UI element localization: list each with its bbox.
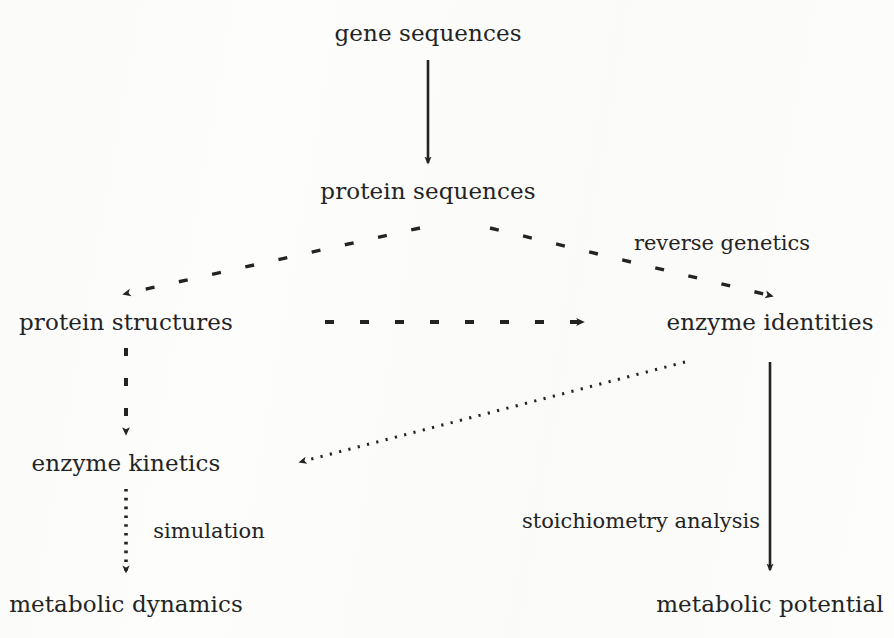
edge-label-stoichiometry-analysis: stoichiometry analysis bbox=[522, 511, 760, 532]
node-enzyme-identities: enzyme identities bbox=[666, 311, 873, 334]
diagram-canvas: gene sequences protein sequences protein… bbox=[0, 0, 894, 638]
node-enzyme-kinetics: enzyme kinetics bbox=[32, 452, 221, 475]
node-metabolic-dynamics: metabolic dynamics bbox=[9, 593, 243, 616]
node-gene-sequences: gene sequences bbox=[334, 22, 521, 45]
edge-enzymes-to-kinetics bbox=[300, 362, 685, 462]
node-protein-sequences: protein sequences bbox=[320, 180, 535, 203]
node-metabolic-potential: metabolic potential bbox=[656, 593, 884, 616]
edge-label-simulation: simulation bbox=[153, 521, 265, 542]
edge-protein-to-structures bbox=[124, 228, 420, 294]
node-protein-structures: protein structures bbox=[19, 311, 233, 334]
edge-label-reverse-genetics: reverse genetics bbox=[634, 233, 810, 254]
